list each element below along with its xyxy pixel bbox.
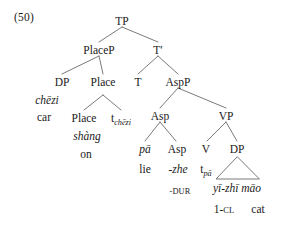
node-asp-lower: Asp <box>168 144 187 156</box>
gloss-mao: cat <box>251 204 264 216</box>
node-placep: PlaceP <box>83 45 114 57</box>
node-tp: TP <box>115 16 128 28</box>
node-v: V <box>202 144 210 156</box>
terminal-pa: pā <box>139 144 151 156</box>
gloss-chezi: car <box>37 112 51 124</box>
trace-pa: tpā <box>200 164 211 176</box>
gloss-dur: -DUR <box>170 186 191 198</box>
terminal-yizhimao: yī-zhī māo <box>213 183 261 195</box>
gloss-classifier: CL <box>223 206 234 215</box>
node-vp: VP <box>219 111 234 123</box>
node-asp-upper: Asp <box>151 111 170 123</box>
trace-chezi-subscript: chēzi <box>114 118 131 127</box>
syntax-tree-figure: (50) TP Pl <box>0 0 287 229</box>
gloss-yizhi: 1-CL <box>214 204 235 217</box>
node-tbar: T′ <box>153 45 163 57</box>
node-dp-object: DP <box>230 144 245 156</box>
node-aspp: AspP <box>166 77 191 89</box>
terminal-shang: shàng <box>73 131 100 143</box>
trace-chezi: tchēzi <box>111 113 131 125</box>
gloss-numeral: 1- <box>214 203 224 215</box>
trace-pa-subscript: pā <box>204 169 212 178</box>
node-place-lower: Place <box>72 113 97 125</box>
node-place-upper: Place <box>91 77 116 89</box>
gloss-shang: on <box>80 149 92 161</box>
node-dp-subject: DP <box>55 77 70 89</box>
gloss-pa: lie <box>139 164 151 176</box>
terminal-zhe: -zhe <box>168 164 187 176</box>
node-t: T <box>134 77 141 89</box>
terminal-chezi: chēzi <box>35 95 59 107</box>
